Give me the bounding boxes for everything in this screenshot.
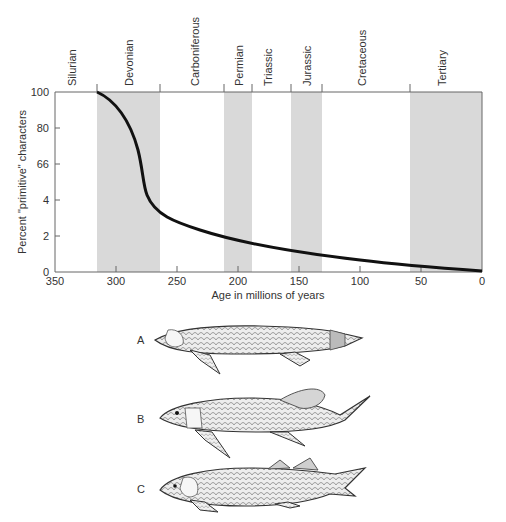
x-axis-title: Age in millions of years [211,289,325,301]
y-tick-66: 66 [37,158,49,170]
y-tick-4: 4 [43,194,49,206]
period-triassic: Triassic [262,48,274,86]
fish-a-illustration: A [137,326,362,374]
y-tick-labels: 100 80 66 4 2 0 [31,86,49,278]
x-tick-labels: 350 300 250 200 150 100 50 0 [46,275,485,287]
period-carboniferous: Carboniferous [189,16,201,86]
x-tick-350: 350 [46,275,64,287]
period-permian: Permian [233,45,245,86]
y-tick-80: 80 [37,122,49,134]
x-tick-300: 300 [107,275,125,287]
period-tertiary: Tertiary [436,49,448,86]
x-tick-50: 50 [415,275,427,287]
period-devonian: Devonian [123,40,135,86]
x-tick-250: 250 [168,275,186,287]
y-tick-100: 100 [31,86,49,98]
fish-c-label: C [137,483,145,495]
fish-a-label: A [137,334,145,346]
band-jurassic [291,92,322,272]
band-devonian [97,92,160,272]
period-silurian: Silurian [66,49,78,86]
fish-b-label: B [137,413,144,425]
x-tick-200: 200 [229,275,247,287]
fish-b-illustration: B [137,389,370,458]
period-jurassic: Jurassic [301,45,313,86]
band-permian [224,92,252,272]
fish-c-illustration: C [137,458,365,512]
x-tick-0: 0 [479,275,485,287]
band-tertiary [410,92,482,272]
period-labels: Silurian Devonian Carboniferous Permian … [66,16,448,86]
period-cretaceous: Cretaceous [356,29,368,86]
x-tick-100: 100 [351,275,369,287]
x-tick-150: 150 [290,275,308,287]
y-axis-title: Percent "primitive" characters [16,109,28,254]
period-bands [97,92,482,272]
figure: 100 80 66 4 2 0 350 300 250 200 150 100 … [0,0,506,522]
y-tick-2: 2 [43,230,49,242]
